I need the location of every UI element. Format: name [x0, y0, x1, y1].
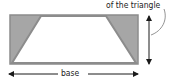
- caption-pointer: [151, 9, 165, 35]
- height-caption: of the triangle: [106, 1, 160, 10]
- diagram-canvas: [0, 0, 175, 83]
- base-label: base: [61, 69, 79, 78]
